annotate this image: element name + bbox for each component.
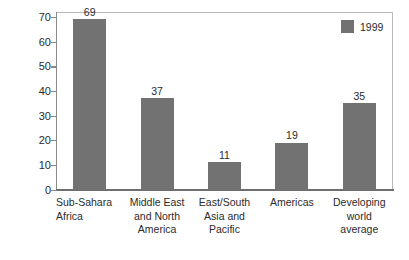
legend-swatch-icon xyxy=(341,20,354,33)
x-category-label-line: average xyxy=(326,223,393,237)
bar xyxy=(208,162,241,189)
x-category-label-line: and North xyxy=(123,210,190,224)
legend: 1999 xyxy=(341,20,383,33)
legend-label: 1999 xyxy=(360,21,383,33)
y-tick-label: 40 xyxy=(23,85,51,97)
y-tick-label: 60 xyxy=(23,36,51,48)
x-category-label-line: Sub-Sahara xyxy=(56,196,123,210)
bar xyxy=(141,98,174,189)
x-category-label-line: East/South xyxy=(191,196,258,210)
bar-value-label: 11 xyxy=(219,149,230,161)
x-category-label-line: Pacific xyxy=(191,223,258,237)
y-tick-label: 30 xyxy=(23,110,51,122)
bar xyxy=(343,103,376,189)
bar-value-label: 19 xyxy=(286,129,298,141)
bar-chart: External debt-to-GNP ratio 0102030405060… xyxy=(0,0,409,260)
bar-value-label: 37 xyxy=(151,85,163,97)
x-category-label-line: Africa xyxy=(56,210,123,224)
x-category-label-line: Americas xyxy=(258,196,325,210)
x-category-label-line: world xyxy=(326,210,393,224)
x-category-label-line: Asia and xyxy=(191,210,258,224)
x-category-label: Americas xyxy=(258,196,325,210)
bars-container xyxy=(56,12,393,190)
y-tick-label: 10 xyxy=(23,159,51,171)
x-category-label: Developingworldaverage xyxy=(326,196,393,237)
bar-value-label: 69 xyxy=(84,6,96,18)
bar-value-label: 35 xyxy=(353,90,365,102)
y-tick-label: 20 xyxy=(23,134,51,146)
y-tick-label: 70 xyxy=(23,11,51,23)
bar xyxy=(275,143,308,190)
y-tick-label: 0 xyxy=(23,184,51,196)
y-tick-label: 50 xyxy=(23,60,51,72)
bar xyxy=(73,19,106,189)
x-category-label-line: America xyxy=(123,223,190,237)
x-category-label: East/SouthAsia andPacific xyxy=(191,196,258,237)
x-category-label: Sub-SaharaAfrica xyxy=(56,196,123,223)
x-category-label-line: Middle East xyxy=(123,196,190,210)
x-category-label-line: Developing xyxy=(326,196,393,210)
x-category-label: Middle Eastand NorthAmerica xyxy=(123,196,190,237)
